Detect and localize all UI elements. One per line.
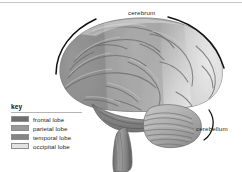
cerebellum-body [143,105,201,148]
legend-divider-rule [11,112,82,113]
legend-label-frontal-lobe: frontal lobe [33,116,64,123]
legend-item-parietal-lobe: parietal lobe [11,124,83,132]
legend-swatch-parietal-lobe [11,125,29,131]
legend-title: key [11,103,83,111]
legend-swatch-frontal-lobe [11,116,29,122]
legend-label-parietal-lobe: parietal lobe [33,125,68,132]
cerebrum-label: cerebrum [128,9,155,16]
legend-item-temporal-lobe: temporal lobe [11,133,83,141]
legend-swatch-temporal-lobe [11,134,29,140]
legend-item-occipital-lobe: occipital lobe [11,142,83,150]
brain-diagram-figure: cerebrum cerebellum key frontal lobe par… [0,0,242,172]
legend-label-occipital-lobe: occipital lobe [33,143,70,150]
legend-item-frontal-lobe: frontal lobe [11,115,83,123]
brain-stem [113,127,132,172]
legend-swatch-occipital-lobe [11,143,29,149]
cerebellum-label: cerebellum [196,125,228,132]
legend-label-temporal-lobe: temporal lobe [33,134,71,141]
cerebrum-body [55,17,226,113]
legend-key: key frontal lobe parietal lobe temporal … [11,103,83,151]
